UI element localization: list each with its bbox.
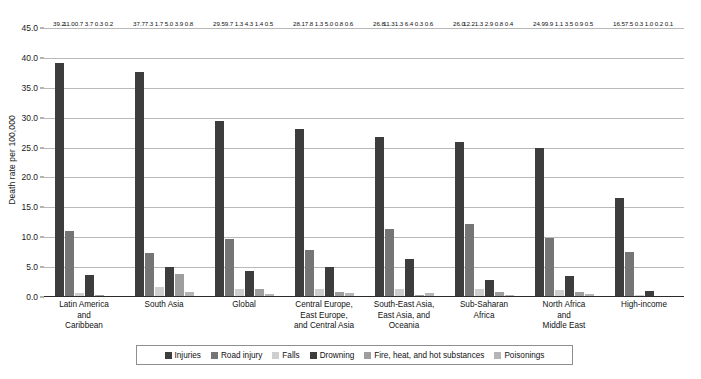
legend-item[interactable]: Poisonings	[494, 351, 544, 360]
bar-column[interactable]: 1.1	[555, 28, 564, 297]
bar[interactable]: 6.4	[405, 259, 414, 297]
bar-value-label: 11.0	[63, 21, 75, 27]
bar-column[interactable]: 1.3	[315, 28, 324, 297]
bar[interactable]: 37.7	[135, 72, 144, 297]
bar-column[interactable]: 1.7	[155, 28, 164, 297]
bar[interactable]: 9.7	[225, 239, 234, 297]
bar-group-bars: 37.77.31.75.03.90.8	[124, 28, 204, 297]
bar[interactable]: 5.0	[165, 267, 174, 297]
bar-column[interactable]: 1.3	[235, 28, 244, 297]
bar-group: 16.57.50.31.00.20.1	[604, 28, 684, 297]
bar-column[interactable]: 4.3	[245, 28, 254, 297]
bar[interactable]: 24.9	[535, 148, 544, 297]
legend-item[interactable]: Fire, heat, and hot substances	[364, 351, 484, 360]
bar[interactable]: 11.3	[385, 229, 394, 297]
bar-group: 26.012.21.32.90.80.4	[444, 28, 524, 297]
y-axis-tick-mark	[40, 117, 44, 118]
bar[interactable]: 12.2	[465, 224, 474, 297]
bar-column[interactable]: 0.3	[415, 28, 424, 297]
legend-item[interactable]: Injuries	[165, 351, 201, 360]
bar-column[interactable]: 28.1	[295, 28, 304, 297]
x-axis-category-line: East Europe,	[285, 311, 363, 322]
bar[interactable]: 26.8	[375, 137, 384, 297]
bar-value-label: 0.8	[185, 21, 194, 27]
bar-value-label: 0.6	[425, 21, 434, 27]
bar-column[interactable]: 0.8	[495, 28, 504, 297]
bar-column[interactable]: 0.6	[425, 28, 434, 297]
legend-item[interactable]: Drowning	[310, 351, 355, 360]
bar-column[interactable]: 0.4	[505, 28, 514, 297]
bar-value-label: 1.3	[475, 21, 484, 27]
bar[interactable]: 28.1	[295, 129, 304, 297]
bar[interactable]: 16.5	[615, 198, 624, 297]
y-axis-tick-label: 5.0	[4, 262, 38, 272]
bar-column[interactable]: 11.3	[385, 28, 394, 297]
bar[interactable]: 39.2	[55, 63, 64, 297]
bar-column[interactable]: 16.5	[615, 28, 624, 297]
bar-column[interactable]: 0.2	[105, 28, 114, 297]
bar[interactable]: 2.9	[485, 280, 494, 297]
bar-column[interactable]: 29.5	[215, 28, 224, 297]
bar-column[interactable]: 11.0	[65, 28, 74, 297]
bar-column[interactable]: 7.8	[305, 28, 314, 297]
bar-value-label: 37.7	[133, 21, 145, 27]
legend-item[interactable]: Road injury	[211, 351, 262, 360]
x-axis-category-label: Central Europe,East Europe,and Central A…	[284, 300, 364, 344]
bar-column[interactable]: 26.8	[375, 28, 384, 297]
bar-column[interactable]: 1.0	[645, 28, 654, 297]
legend-item[interactable]: Falls	[272, 351, 299, 360]
bar[interactable]: 7.5	[625, 252, 634, 297]
bar-column[interactable]: 0.2	[655, 28, 664, 297]
bar[interactable]: 5.0	[325, 267, 334, 297]
bar-column[interactable]: 0.3	[635, 28, 644, 297]
bar-column[interactable]: 3.9	[175, 28, 184, 297]
bar[interactable]: 3.5	[565, 276, 574, 297]
bar-column[interactable]: 1.4	[255, 28, 264, 297]
bar-column[interactable]: 1.3	[475, 28, 484, 297]
bar-value-label: 9.7	[225, 21, 234, 27]
bar-column[interactable]: 0.8	[335, 28, 344, 297]
bar[interactable]: 3.9	[175, 274, 184, 297]
bar[interactable]: 4.3	[245, 271, 254, 297]
bar-column[interactable]: 0.5	[585, 28, 594, 297]
bar-column[interactable]: 0.3	[95, 28, 104, 297]
bar-column[interactable]: 0.8	[185, 28, 194, 297]
bar-column[interactable]: 24.9	[535, 28, 544, 297]
bar-column[interactable]: 3.5	[565, 28, 574, 297]
bar-column[interactable]: 9.7	[225, 28, 234, 297]
legend-item-label: Fire, heat, and hot substances	[374, 351, 484, 360]
bar-column[interactable]: 0.5	[265, 28, 274, 297]
bar-column[interactable]: 7.3	[145, 28, 154, 297]
x-axis-category-label: Sub-SaharanAfrica	[444, 300, 524, 344]
bar[interactable]: 9.9	[545, 238, 554, 297]
bar-group-bars: 28.17.81.35.00.80.6	[284, 28, 364, 297]
bar-column[interactable]: 9.9	[545, 28, 554, 297]
bar-column[interactable]: 0.9	[575, 28, 584, 297]
bar-value-label: 1.7	[155, 21, 164, 27]
bar[interactable]: 29.5	[215, 121, 224, 297]
bar-value-label: 2.9	[485, 21, 494, 27]
bar-column[interactable]: 37.7	[135, 28, 144, 297]
bar-column[interactable]: 12.2	[465, 28, 474, 297]
x-axis-category-line: Sub-Saharan	[445, 300, 523, 311]
bar-column[interactable]: 0.1	[665, 28, 674, 297]
x-axis-category-line: Africa	[445, 311, 523, 322]
bar-column[interactable]: 2.9	[485, 28, 494, 297]
bar[interactable]: 7.3	[145, 253, 154, 297]
bar[interactable]: 11.0	[65, 231, 74, 297]
x-axis-category-label: Latin AmericaandCaribbean	[44, 300, 124, 344]
bar-column[interactable]: 26.0	[455, 28, 464, 297]
bar-column[interactable]: 6.4	[405, 28, 414, 297]
bar[interactable]: 3.7	[85, 275, 94, 297]
bar-column[interactable]: 0.7	[75, 28, 84, 297]
bar-column[interactable]: 5.0	[165, 28, 174, 297]
bar[interactable]: 26.0	[455, 142, 464, 297]
bar-column[interactable]: 5.0	[325, 28, 334, 297]
bar-column[interactable]: 1.3	[395, 28, 404, 297]
bar-column[interactable]: 39.2	[55, 28, 64, 297]
bar-column[interactable]: 7.5	[625, 28, 634, 297]
bar-column[interactable]: 3.7	[85, 28, 94, 297]
bar-column[interactable]: 0.6	[345, 28, 354, 297]
bar-value-label: 0.3	[635, 21, 644, 27]
bar[interactable]: 7.8	[305, 250, 314, 297]
